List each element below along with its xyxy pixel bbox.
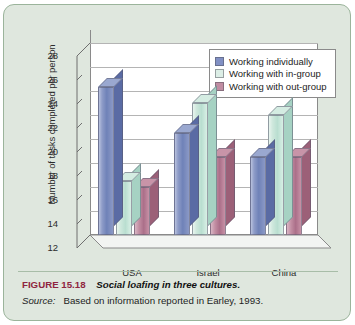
plot-area: 121416182022242628 USAIsraelChina Workin… — [90, 43, 318, 235]
legend-swatch-in-group — [215, 69, 224, 78]
bar-side-face — [114, 69, 123, 226]
legend-item: Working with in-group — [215, 68, 327, 79]
legend-item: Working with out-group — [215, 81, 327, 92]
figure-caption: FIGURE 15.18 Social loafing in three cul… — [22, 279, 342, 306]
bar — [174, 133, 190, 235]
chart-legend: Working individually Working with in-gro… — [209, 49, 336, 98]
caption-title: Social loafing in three cultures. — [96, 279, 240, 290]
x-tick-label: China — [254, 267, 314, 278]
source-label: Source: — [22, 295, 55, 306]
y-tick-label: 12 — [30, 242, 58, 253]
bar-front-face — [174, 133, 190, 235]
gridline — [90, 43, 318, 44]
bar-side-face — [284, 97, 293, 226]
bar-side-face — [208, 85, 217, 226]
bar-front-face — [98, 87, 114, 235]
figure-number: FIGURE 15.18 — [22, 279, 86, 290]
y-tick-label: 26 — [30, 74, 58, 85]
legend-item: Working individually — [215, 56, 327, 67]
y-tick-label: 16 — [30, 194, 58, 205]
x-tick-label: USA — [102, 267, 162, 278]
chart-area: Number of tasks completed per person 121… — [18, 15, 338, 267]
caption-source-line: Source: Based on information reported in… — [22, 295, 342, 306]
bar — [250, 157, 266, 235]
plot-depth-top — [90, 30, 319, 43]
figure-panel: Number of tasks completed per person 121… — [3, 4, 351, 321]
bar-front-face — [250, 157, 266, 235]
y-tick-label: 24 — [30, 98, 58, 109]
legend-label-individually: Working individually — [229, 56, 313, 67]
x-tick-label: Israel — [178, 267, 238, 278]
caption-title-line: FIGURE 15.18 Social loafing in three cul… — [22, 279, 342, 290]
y-tick-label: 28 — [30, 50, 58, 61]
caption-divider — [18, 271, 338, 272]
source-text: Based on information reported in Earley,… — [64, 295, 264, 306]
bar — [98, 87, 114, 235]
y-tick-label: 20 — [30, 146, 58, 157]
legend-label-in-group: Working with in-group — [229, 68, 321, 79]
legend-swatch-individually — [215, 57, 224, 66]
y-tick-label: 18 — [30, 170, 58, 181]
y-tick-label: 14 — [30, 218, 58, 229]
legend-label-out-group: Working with out-group — [229, 81, 327, 92]
y-tick-label: 22 — [30, 122, 58, 133]
